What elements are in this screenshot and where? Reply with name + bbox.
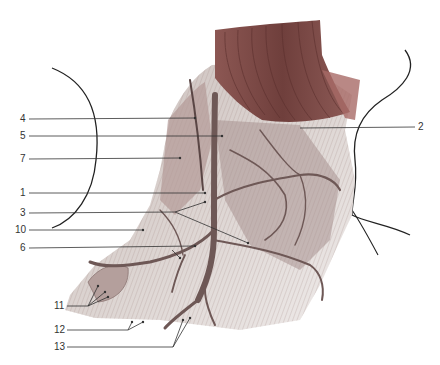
head-outline-left — [52, 68, 97, 228]
label-3: 3 — [20, 208, 26, 218]
neck-outline-right-lower — [352, 210, 378, 255]
neck-illustration — [0, 0, 440, 365]
label-5: 5 — [20, 131, 26, 141]
label-1: 1 — [20, 188, 26, 198]
label-10: 10 — [15, 225, 26, 235]
anatomy-figure: 4 5 7 1 3 10 6 2 11 12 13 — [0, 0, 440, 365]
label-13: 13 — [54, 342, 65, 352]
label-2: 2 — [418, 122, 424, 132]
label-12: 12 — [54, 325, 65, 335]
label-6: 6 — [20, 243, 26, 253]
label-4: 4 — [20, 114, 26, 124]
label-7: 7 — [20, 154, 26, 164]
neck-outline-right — [352, 50, 411, 235]
label-11: 11 — [54, 301, 64, 311]
